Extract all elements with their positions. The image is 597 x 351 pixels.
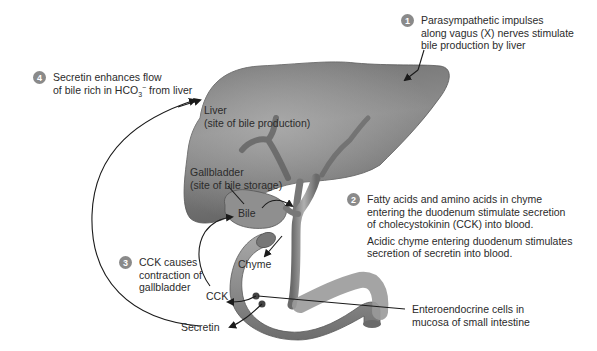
step-3-text-line: CCK causes — [139, 256, 202, 269]
step-1-text-line: Parasympathetic impulses — [421, 14, 574, 27]
liver-label: Liver (site of bile production) — [204, 104, 310, 129]
step-3-text-line: gallbladder — [139, 281, 202, 294]
chyme-label: Chyme — [238, 258, 271, 271]
bile-label: Bile — [238, 207, 256, 220]
step-1-callout: 1 Parasympathetic impulses along vagus (… — [401, 14, 574, 52]
step-3-callout: 3 CCK causes contraction of gallbladder — [119, 256, 202, 294]
step-number-badge: 1 — [401, 14, 414, 27]
step-4-text-line: Secretin enhances flow — [53, 71, 192, 84]
step-1-text-line: bile production by liver — [421, 39, 574, 52]
step-2-text-line: Acidic chyme entering duodenum stimulate… — [367, 235, 572, 248]
step-number-badge: 3 — [119, 256, 132, 269]
step-2-text-line: entering the duodenum stimulate secretio… — [367, 206, 572, 219]
enteroendocrine-label: Enteroendocrine cells in mucosa of small… — [412, 303, 530, 328]
step-number-badge: 2 — [347, 193, 360, 206]
step-number-badge: 4 — [33, 71, 46, 84]
bile-ducts — [286, 178, 316, 305]
step-2-callout: 2 Fatty acids and amino acids in chyme e… — [347, 193, 572, 260]
cck-label: CCK — [206, 290, 228, 303]
secretin-label: Secretin — [181, 321, 220, 334]
step-3-text-line: contraction of — [139, 269, 202, 282]
step-2-text-line: of cholecystokinin (CCK) into blood. — [367, 218, 572, 231]
gallbladder-label: Gallbladder (site of bile storage) — [190, 166, 282, 191]
step-4-text-line: of bile rich in HCO3− from liver — [53, 84, 192, 97]
digestive-anatomy-illustration — [0, 0, 597, 351]
step-2-text-line: Fatty acids and amino acids in chyme — [367, 193, 572, 206]
step-4-callout: 4 Secretin enhances flow of bile rich in… — [33, 71, 192, 96]
step-2-text-line: secretion of secretin into blood. — [367, 247, 572, 260]
step-1-text-line: along vagus (X) nerves stimulate — [421, 27, 574, 40]
